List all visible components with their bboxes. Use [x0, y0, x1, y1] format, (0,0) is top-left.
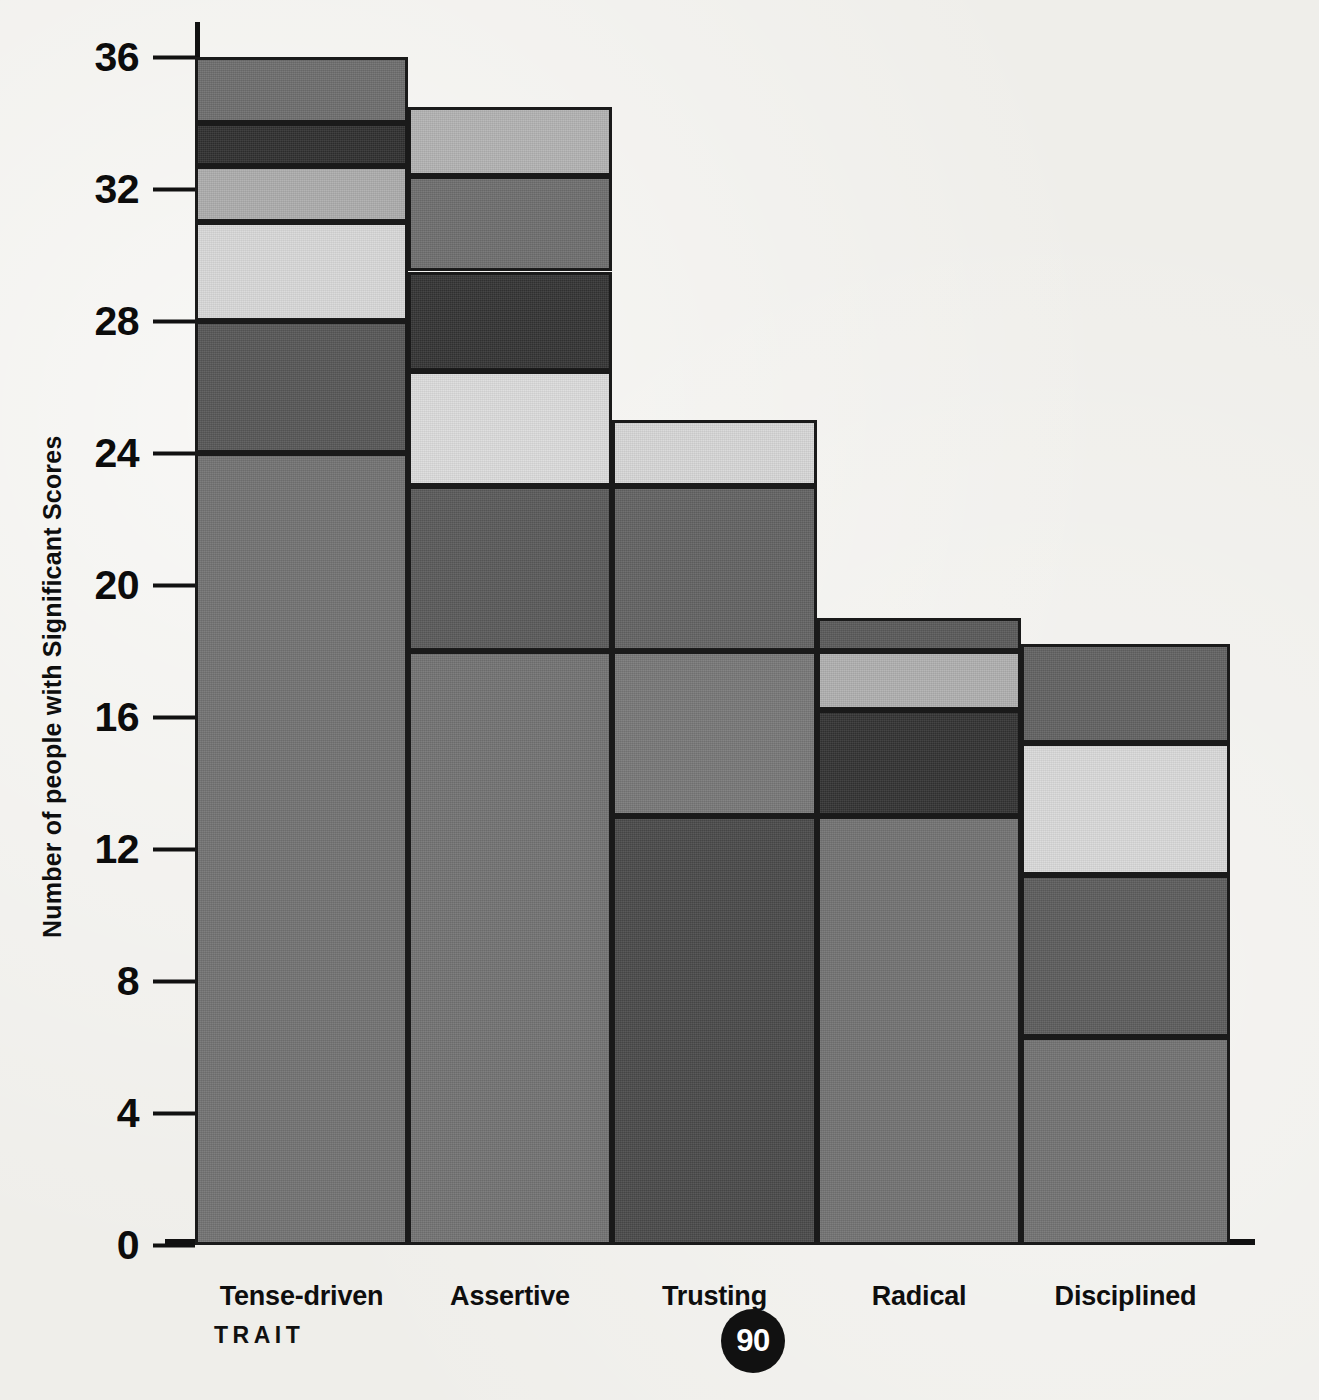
- y-axis-tick-mark: [153, 187, 195, 191]
- y-axis-tick-32: 32: [65, 166, 195, 213]
- y-axis-tick-8: 8: [65, 958, 195, 1005]
- y-axis-tick-mark: [153, 451, 195, 455]
- chart-plot-area: 36322824201612840: [195, 22, 1255, 1245]
- bar-tense-driven[interactable]: [195, 57, 408, 1245]
- page-number-badge: 90: [721, 1309, 785, 1373]
- y-axis-tick-label: 28: [65, 298, 139, 345]
- y-axis-tick-mark: [153, 715, 195, 719]
- y-axis-tick-label: 20: [65, 562, 139, 609]
- bar-segment[interactable]: [195, 321, 408, 453]
- y-axis-title: Number of people with Significant Scores: [38, 418, 67, 938]
- y-axis-tick-label: 8: [65, 958, 139, 1005]
- y-axis-tick-mark: [153, 979, 195, 983]
- bar-segment[interactable]: [612, 486, 817, 651]
- y-axis-tick-16: 16: [65, 694, 195, 741]
- bar-series: [195, 22, 1255, 1245]
- bar-segment[interactable]: [1021, 743, 1230, 875]
- y-axis-tick-label: 32: [65, 166, 139, 213]
- x-axis-label-disciplined: Disciplined: [976, 1281, 1276, 1312]
- y-axis-tick-24: 24: [65, 430, 195, 477]
- bar-segment[interactable]: [195, 222, 408, 321]
- bar-segment[interactable]: [408, 371, 612, 487]
- y-axis-tick-label: 36: [65, 34, 139, 81]
- bar-segment[interactable]: [195, 453, 408, 1245]
- bar-segment[interactable]: [1021, 1037, 1230, 1245]
- y-axis-tick-28: 28: [65, 298, 195, 345]
- bar-segment[interactable]: [817, 710, 1021, 816]
- bar-segment[interactable]: [1021, 644, 1230, 743]
- y-axis-tick-label: 12: [65, 826, 139, 873]
- bar-segment[interactable]: [612, 420, 817, 486]
- bar-segment[interactable]: [408, 272, 612, 371]
- bar-trusting[interactable]: [612, 420, 817, 1245]
- y-axis-tick-label: 0: [65, 1222, 139, 1269]
- bar-segment[interactable]: [408, 176, 612, 272]
- bar-segment[interactable]: [817, 618, 1021, 651]
- y-axis-tick-20: 20: [65, 562, 195, 609]
- y-axis-tick-0: 0: [65, 1222, 195, 1269]
- y-axis-tick-4: 4: [65, 1090, 195, 1137]
- y-axis-tick-mark: [153, 1243, 195, 1247]
- bar-segment[interactable]: [817, 651, 1021, 710]
- bar-segment[interactable]: [612, 651, 817, 816]
- y-axis-tick-label: 4: [65, 1090, 139, 1137]
- y-axis-tick-mark: [153, 847, 195, 851]
- y-axis-tick-mark: [153, 1111, 195, 1115]
- bar-segment[interactable]: [408, 107, 612, 176]
- x-axis-title: TRAIT: [214, 1322, 304, 1349]
- y-axis-tick-12: 12: [65, 826, 195, 873]
- y-axis-tick-mark: [153, 55, 195, 59]
- bar-segment[interactable]: [195, 166, 408, 222]
- bar-segment[interactable]: [817, 816, 1021, 1245]
- bar-segment[interactable]: [408, 486, 612, 651]
- bar-assertive[interactable]: [408, 107, 612, 1246]
- y-axis-tick-36: 36: [65, 34, 195, 81]
- bar-segment[interactable]: [195, 57, 408, 123]
- bar-segment[interactable]: [612, 816, 817, 1245]
- y-axis-tick-mark: [153, 319, 195, 323]
- bar-segment[interactable]: [1021, 875, 1230, 1037]
- bar-segment[interactable]: [195, 123, 408, 166]
- y-axis-tick-mark: [153, 583, 195, 587]
- bar-disciplined[interactable]: [1021, 644, 1230, 1245]
- bar-segment[interactable]: [408, 651, 612, 1245]
- bar-radical[interactable]: [817, 618, 1021, 1245]
- y-axis-tick-label: 16: [65, 694, 139, 741]
- y-axis-tick-label: 24: [65, 430, 139, 477]
